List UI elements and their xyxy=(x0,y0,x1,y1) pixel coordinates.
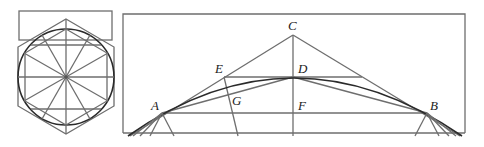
arc xyxy=(128,78,462,136)
label-b: B xyxy=(430,98,438,113)
label-c: C xyxy=(288,18,297,33)
label-g: G xyxy=(232,93,242,108)
label-d: D xyxy=(297,61,308,76)
label-a: A xyxy=(150,98,159,113)
left-figure xyxy=(18,11,114,134)
label-f: F xyxy=(297,98,307,113)
label-e: E xyxy=(214,61,223,76)
right-figure: C D E G F A B xyxy=(123,14,465,136)
diagram-canvas: C D E G F A B xyxy=(0,0,484,147)
